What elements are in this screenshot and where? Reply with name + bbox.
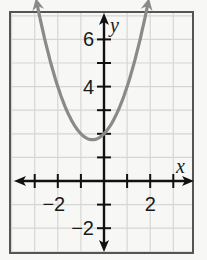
plot-frame [10, 12, 193, 253]
x-tick-label: 2 [145, 193, 156, 215]
x-axis-label: x [175, 155, 185, 177]
y-axis-label: y [108, 14, 119, 37]
y-tick-label: 4 [83, 76, 94, 98]
curve-arrowheads [32, 0, 152, 11]
parabola-curve [38, 6, 148, 140]
grid-lines [10, 12, 193, 253]
coordinate-plane: −2264−2 x y [0, 0, 207, 260]
x-tick-label: −2 [42, 193, 65, 215]
y-tick-label: 6 [83, 28, 94, 50]
y-tick-label: −2 [71, 217, 94, 239]
